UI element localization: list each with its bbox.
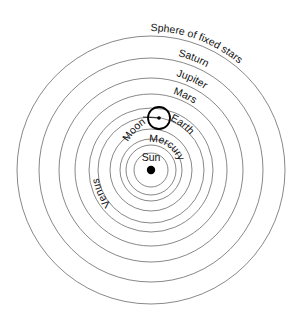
earth-icon xyxy=(157,116,161,120)
label-saturn: Saturn xyxy=(177,46,211,69)
label-earth: Earth xyxy=(169,111,197,136)
sun-icon xyxy=(147,166,155,174)
label-moon: Moon xyxy=(120,115,148,143)
label-venus: Venus xyxy=(89,178,113,211)
heliocentric-diagram: Sphere of fixed stars Saturn Jupiter Mar… xyxy=(0,0,302,321)
label-sun: Sun xyxy=(142,151,161,163)
earth-moon-system xyxy=(143,107,170,129)
